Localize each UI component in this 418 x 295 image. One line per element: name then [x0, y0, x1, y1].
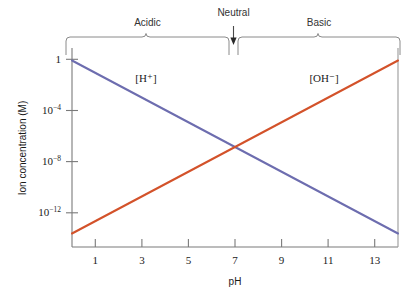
y-tick-label-1-base: 10	[42, 104, 54, 116]
x-tick-label-1: 3	[139, 254, 145, 266]
acidic-label: Acidic	[134, 17, 161, 28]
y-tick-label-2-base: 10	[42, 155, 54, 167]
x-tick-label-2: 5	[186, 254, 192, 266]
y-tick-label-3-exp: −12	[49, 205, 61, 214]
chart-background	[0, 0, 418, 295]
y-tick-label-2-exp: −8	[53, 154, 61, 163]
series-label-h: [H⁺]	[135, 72, 156, 84]
x-tick-label-6: 13	[369, 254, 381, 266]
basic-label: Basic	[307, 17, 331, 28]
ph-ion-concentration-chart: Acidic Neutral Basic 1 10−4 10−8	[0, 0, 418, 295]
y-tick-label-3-base: 10	[38, 206, 50, 218]
x-tick-label-0: 1	[93, 254, 99, 266]
neutral-label: Neutral	[217, 7, 249, 18]
series-label-oh: [OH⁻]	[309, 72, 338, 84]
y-tick-label-1-exp: −4	[53, 103, 61, 112]
x-tick-label-3: 7	[232, 254, 238, 266]
x-tick-label-5: 11	[323, 254, 334, 266]
x-tick-label-4: 9	[279, 254, 285, 266]
chart-svg: Acidic Neutral Basic 1 10−4 10−8	[0, 0, 418, 295]
x-axis-title: pH	[229, 276, 242, 287]
y-axis-title: Ion concentration (M)	[17, 101, 28, 196]
y-tick-label-0: 1	[56, 53, 62, 65]
